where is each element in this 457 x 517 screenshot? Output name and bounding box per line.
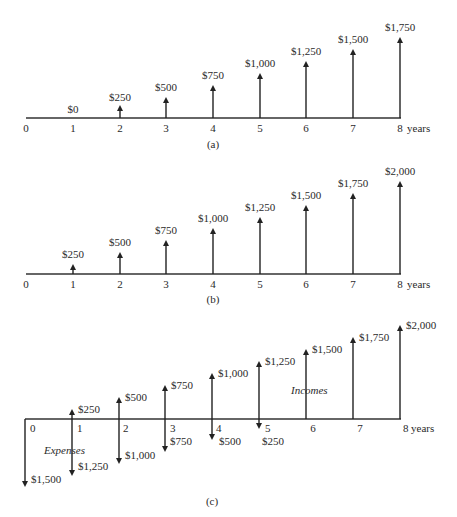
expense-label: $250 [262,435,285,447]
up-arrow-icon [162,385,168,419]
income-label: $1,500 [312,343,343,355]
tick-label: 8 [403,422,409,434]
tick-label: 3 [163,122,169,134]
tick-label: 2 [117,278,123,290]
up-arrow-icon [70,264,76,274]
down-arrow-icon [209,419,215,440]
axis-unit-label: years [411,422,434,434]
tick-label: 2 [123,422,129,434]
down-arrow-icon [22,419,28,487]
diagram-a: 0 1 2 3 4 5 6 7 8 years $0 $250 $500 $75… [23,21,430,151]
tick-label: 4 [216,422,222,434]
expense-label: $1,000 [125,449,156,461]
up-arrow-icon [350,337,356,419]
tick-label: 5 [265,422,271,434]
up-arrow-icon [163,97,169,118]
expense-label: $1,250 [78,460,109,472]
tick-label: 1 [77,422,83,434]
cash-flow-label: $500 [155,81,178,93]
cash-flow-label: $750 [155,224,178,236]
cash-flow-label: $1,750 [338,177,369,189]
cash-flow-label: $750 [202,69,225,81]
cash-flow-label: $1,000 [198,212,229,224]
up-arrow-icon [257,217,263,274]
down-arrow-icon [256,419,262,429]
figure-caption: (c) [206,495,219,508]
tick-label: 3 [163,278,169,290]
tick-label: 7 [350,122,356,134]
cash-flow-label: $2,000 [385,165,416,177]
up-arrow-icon [350,193,356,274]
axis-unit-label: years [407,122,430,134]
up-arrow-icon [210,228,216,274]
expense-label: $1,500 [31,473,62,485]
down-arrow-icon [116,419,122,464]
up-arrow-icon [397,325,403,419]
up-arrow-icon [69,409,75,419]
tick-label: 6 [303,278,309,290]
cash-flow-label: $0 [68,103,80,115]
up-arrow-icon [117,105,123,118]
tick-label: 7 [350,278,356,290]
up-arrow-icon [303,61,309,118]
income-label: $1,000 [218,367,249,379]
up-arrow-icon [256,361,262,419]
up-arrow-icon [209,373,215,419]
tick-label: 3 [170,422,176,434]
cash-flow-label: $1,250 [291,45,322,57]
income-label: $2,000 [406,319,437,331]
up-arrow-icon [397,181,403,274]
up-arrow-icon [397,37,403,118]
up-arrow-icon [116,397,122,419]
up-arrow-icon [117,252,123,274]
tick-label: 7 [357,422,363,434]
cash-flow-label: $250 [62,248,85,260]
incomes-annotation: Incomes [290,384,328,396]
tick-label: 2 [117,122,123,134]
cash-flow-label: $1,000 [245,57,276,69]
income-label: $1,250 [265,355,296,367]
figure-caption: (a) [207,138,220,151]
cash-flow-label: $250 [109,91,132,103]
cash-flow-figure: 0 1 2 3 4 5 6 7 8 years $0 $250 $500 $75… [0,0,457,517]
tick-label: 8 [397,278,403,290]
down-arrow-icon [162,419,168,452]
cash-flow-label: $1,250 [245,201,276,213]
up-arrow-icon [350,49,356,118]
expense-label: $750 [170,435,193,447]
diagram-c: 0 1 2 3 4 5 6 7 8 years $250 $500 $750 $… [22,319,437,508]
tick-label: 5 [257,278,263,290]
tick-label: 6 [303,122,309,134]
tick-label: 1 [70,122,76,134]
up-arrow-icon [303,205,309,274]
tick-label: 5 [257,122,263,134]
up-arrow-icon [163,240,169,274]
tick-label: 0 [23,122,29,134]
cash-flow-label: $1,500 [338,33,369,45]
tick-label: 6 [310,422,316,434]
up-arrow-icon [210,85,216,118]
tick-label: 1 [70,278,76,290]
up-arrow-icon [257,73,263,118]
cash-flow-label: $1,500 [291,189,322,201]
tick-label: 4 [210,122,216,134]
diagram-b: 0 1 2 3 4 5 6 7 8 years $250 $500 $750 $… [23,165,430,306]
tick-label: 8 [397,122,403,134]
income-label: $1,750 [359,331,390,343]
income-label: $750 [171,379,194,391]
income-label: $250 [78,403,101,415]
expenses-annotation: Expenses [43,444,85,456]
expense-label: $500 [219,435,242,447]
cash-flow-label: $500 [109,236,132,248]
tick-label: 4 [210,278,216,290]
cash-flow-label: $1,750 [385,21,416,33]
axis-unit-label: years [407,278,430,290]
tick-label: 0 [30,422,36,434]
tick-label: 0 [23,278,29,290]
figure-caption: (b) [207,293,220,306]
income-label: $500 [125,391,148,403]
